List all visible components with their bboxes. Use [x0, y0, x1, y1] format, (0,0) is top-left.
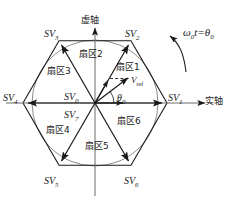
- label-vref: Vref: [131, 76, 143, 87]
- label-sv7-sub: 7: [75, 115, 79, 123]
- label-sv2-sub: 2: [136, 34, 140, 42]
- label-vref-sub: ref: [137, 81, 144, 87]
- label-sv6-name: SV: [124, 175, 135, 186]
- label-sv3-name: SV: [44, 28, 55, 39]
- label-sv1-sub: 1: [179, 98, 183, 106]
- theta-subscript: 0: [210, 33, 214, 41]
- real-axis-label: 实轴: [205, 97, 223, 106]
- rotation-annotation: ω0t=θ0: [183, 27, 214, 41]
- sector-label-6: 扇区6: [117, 117, 141, 126]
- label-sv1: SV1: [168, 93, 183, 106]
- rotation-direction-arc: [170, 36, 186, 72]
- theta-angle-arc: [110, 92, 114, 104]
- label-sv0: SV0: [64, 92, 79, 105]
- label-sv5-sub: 5: [55, 181, 59, 189]
- label-sv2-name: SV: [125, 28, 136, 39]
- sector-label-1: 扇区1: [116, 63, 140, 72]
- imaginary-axis-label: 虚轴: [81, 16, 99, 25]
- label-sv7: SV7: [64, 110, 79, 123]
- vref-component-sv2: [95, 81, 108, 104]
- label-sv4-sub: 4: [14, 98, 18, 106]
- label-sv5-name: SV: [44, 175, 55, 186]
- sector-label-4: 扇区4: [46, 126, 70, 135]
- label-sv1-name: SV: [168, 92, 179, 103]
- vector-sv6: [95, 103, 129, 161]
- label-sv2: SV2: [125, 29, 140, 42]
- omega-symbol: ω: [183, 26, 191, 38]
- sector-label-5: 扇区5: [85, 142, 109, 151]
- label-sv4: SV4: [3, 93, 18, 106]
- figure-canvas: 虚轴 实轴 ω0t=θ0 SV1 SV2 SV3 SV4 SV5 SV6 SV0…: [0, 0, 229, 202]
- label-sv0-name: SV: [64, 91, 75, 102]
- label-sv0-sub: 0: [75, 97, 79, 105]
- label-theta0-sub: 0: [122, 98, 126, 106]
- label-sv5: SV5: [44, 176, 59, 189]
- sector-label-2: 扇区2: [79, 50, 103, 59]
- label-sv4-name: SV: [3, 92, 14, 103]
- label-sv6-sub: 6: [135, 181, 139, 189]
- label-sv3-sub: 3: [55, 34, 59, 42]
- label-sv3: SV3: [44, 29, 59, 42]
- label-theta0: θ0: [117, 93, 125, 106]
- equals-symbol: =: [197, 26, 204, 38]
- label-sv7-name: SV: [64, 109, 75, 120]
- label-sv6: SV6: [124, 176, 139, 189]
- sector-label-3: 扇区3: [47, 67, 71, 76]
